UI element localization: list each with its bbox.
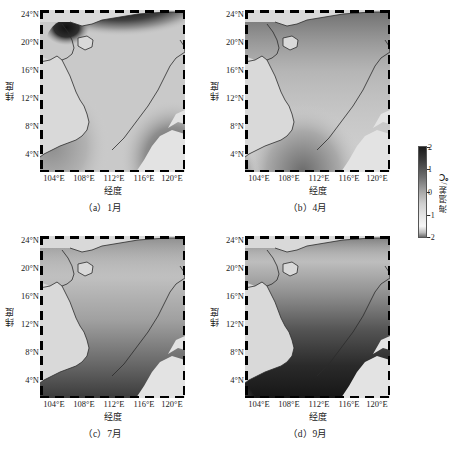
x-tick: 112°E [103, 399, 124, 409]
y-tick: 24°N [21, 235, 39, 245]
colorbar-label: 海温差/℃ [438, 146, 450, 238]
plot-area-d [245, 236, 390, 398]
x-tick: 112°E [103, 173, 124, 183]
x-tick: 116°E [338, 173, 359, 183]
y-tick: 4°N [25, 375, 39, 385]
x-axis-label-b: 经度 [245, 184, 390, 197]
y-tick: 24°N [21, 9, 39, 19]
x-tick: 108°E [278, 399, 299, 409]
y-tick: 16°N [226, 65, 244, 75]
x-axis-label-d: 经度 [245, 410, 390, 423]
colorbar-tick: -1 [428, 211, 435, 220]
y-axis-ticks-a: 24°N 20°N 16°N 12°N 8°N 4°N [0, 10, 39, 172]
panel-b-april: 纬度 24°N 20°N 16°N 12°N 8°N 4°N [205, 0, 410, 226]
map-raster-c [40, 236, 185, 398]
colorbar: 2 1 0 -1 -2 海温差/℃ [414, 146, 460, 242]
x-axis-label-a: 经度 [40, 184, 185, 197]
y-tick: 12°N [226, 319, 244, 329]
y-tick: 8°N [25, 121, 39, 131]
y-tick: 20°N [21, 263, 39, 273]
y-tick: 12°N [226, 93, 244, 103]
x-tick: 104°E [248, 173, 269, 183]
y-tick: 24°N [226, 235, 244, 245]
y-tick: 24°N [226, 9, 244, 19]
x-tick: 120°E [366, 173, 387, 183]
panel-a-january: 纬度 24°N 20°N 16°N 12°N 8°N 4°N [0, 0, 205, 226]
x-tick: 120°E [366, 399, 387, 409]
x-tick: 116°E [133, 399, 154, 409]
colorbar-tick: 2 [428, 143, 432, 152]
figure-sst-difference-maps: 纬度 24°N 20°N 16°N 12°N 8°N 4°N [0, 0, 460, 452]
y-tick: 4°N [230, 375, 244, 385]
y-tick: 8°N [25, 347, 39, 357]
y-axis-ticks-c: 24°N 20°N 16°N 12°N 8°N 4°N [0, 236, 39, 398]
y-tick: 20°N [226, 37, 244, 47]
colorbar-tick: -2 [428, 233, 435, 242]
x-tick: 104°E [43, 399, 64, 409]
colorbar-gradient [418, 146, 427, 238]
x-tick: 108°E [73, 399, 94, 409]
y-tick: 8°N [230, 347, 244, 357]
x-tick: 116°E [133, 173, 154, 183]
x-tick: 116°E [338, 399, 359, 409]
x-tick: 104°E [43, 173, 64, 183]
panel-caption-c: （c）7月 [0, 426, 205, 440]
map-raster-d [245, 236, 390, 398]
y-tick: 8°N [230, 121, 244, 131]
x-tick: 104°E [248, 399, 269, 409]
y-axis-ticks-d: 24°N 20°N 16°N 12°N 8°N 4°N [205, 236, 244, 398]
y-tick: 12°N [21, 93, 39, 103]
colorbar-tick: 1 [428, 165, 432, 174]
y-tick: 12°N [21, 319, 39, 329]
panel-caption-d: （d）9月 [205, 426, 410, 440]
y-tick: 4°N [25, 149, 39, 159]
plot-area-c [40, 236, 185, 398]
x-axis-label-c: 经度 [40, 410, 185, 423]
y-tick: 16°N [21, 291, 39, 301]
panel-caption-b: （b）4月 [205, 200, 410, 214]
panel-d-september: 纬度 24°N 20°N 16°N 12°N 8°N 4°N [205, 226, 410, 452]
y-tick: 4°N [230, 149, 244, 159]
map-raster-a [40, 10, 185, 172]
colorbar-tick: 0 [428, 188, 432, 197]
panel-c-july: 纬度 24°N 20°N 16°N 12°N 8°N 4°N [0, 226, 205, 452]
y-tick: 20°N [21, 37, 39, 47]
map-raster-b [245, 10, 390, 172]
x-tick: 108°E [278, 173, 299, 183]
y-tick: 16°N [226, 291, 244, 301]
x-tick: 120°E [161, 399, 182, 409]
x-tick: 112°E [308, 399, 329, 409]
x-tick: 112°E [308, 173, 329, 183]
x-tick: 120°E [161, 173, 182, 183]
y-tick: 20°N [226, 263, 244, 273]
y-axis-ticks-b: 24°N 20°N 16°N 12°N 8°N 4°N [205, 10, 244, 172]
plot-area-a [40, 10, 185, 172]
panel-caption-a: （a）1月 [0, 200, 205, 214]
plot-area-b [245, 10, 390, 172]
y-tick: 16°N [21, 65, 39, 75]
x-tick: 108°E [73, 173, 94, 183]
